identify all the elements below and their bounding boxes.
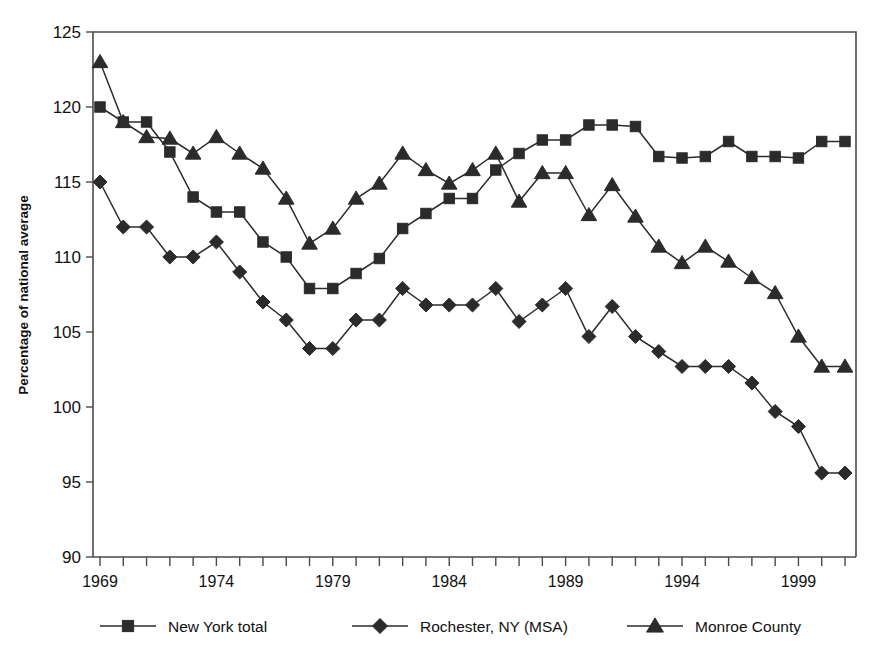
data-point-diamond [512,314,526,328]
data-point-square [165,147,175,157]
data-point-triangle [302,236,318,249]
line-chart: Percentage of national average 909510010… [0,0,872,658]
data-point-diamond [628,329,642,343]
data-point-square [467,193,477,203]
data-point-diamond [93,175,107,189]
data-point-diamond [116,220,130,234]
data-point-triangle [604,177,620,190]
data-point-diamond [419,298,433,312]
data-point-square [607,120,617,130]
data-point-square [281,252,291,262]
data-point-square [397,223,407,233]
series-diamond [93,175,852,480]
data-point-triangle [721,254,737,267]
legend-item-triangle[interactable]: Monroe County [627,618,801,635]
data-point-diamond [791,419,805,433]
y-tick-label: 90 [62,548,81,567]
x-tick-label: 1984 [431,573,467,590]
data-point-square [514,148,524,158]
data-point-square [817,136,827,146]
data-point-diamond [209,235,223,249]
y-axis-ticks: 9095100105110115120125 [53,23,93,567]
data-point-square [584,120,594,130]
axis-lines [93,32,856,557]
data-point-triangle [348,191,364,204]
data-point-triangle [698,239,714,252]
y-tick-label: 105 [53,323,81,342]
legend-label: Rochester, NY (MSA) [420,618,568,635]
data-point-diamond [722,359,736,373]
data-point-diamond [652,344,666,358]
data-point-square [374,253,384,263]
y-axis-title: Percentage of national average [16,195,31,395]
data-point-triangle [255,161,271,174]
chart-container: Percentage of national average 909510010… [0,0,872,658]
x-tick-label: 1989 [548,573,584,590]
y-tick-label: 125 [53,23,81,42]
series-line [100,182,845,473]
series-square [95,102,850,294]
data-point-diamond [186,250,200,264]
data-point-square [328,283,338,293]
data-point-triangle [814,359,830,372]
data-point-triangle [767,285,783,298]
legend-item-diamond[interactable]: Rochester, NY (MSA) [352,618,568,635]
data-point-square [770,151,780,161]
data-point-triangle [441,176,457,189]
data-point-square [351,268,361,278]
data-point-diamond [559,281,573,295]
data-point-square [141,117,151,127]
plot-frame [93,32,856,557]
data-point-triangle [488,146,504,159]
data-point-square [211,207,221,217]
data-point-triangle [372,176,388,189]
data-point-square [723,136,733,146]
x-axis-ticks: 1969197419791984198919941999 [82,557,845,590]
data-point-square [793,153,803,163]
data-point-triangle [325,221,341,234]
data-point-square [258,237,268,247]
data-point-triangle [744,270,760,283]
data-point-square [840,136,850,146]
data-point-triangle [674,255,690,268]
y-tick-label: 110 [54,248,81,267]
data-point-triangle [232,146,248,159]
data-point-triangle [278,191,294,204]
data-point-square [421,208,431,218]
data-point-triangle [92,54,108,67]
data-point-diamond [605,299,619,313]
data-point-triangle [465,162,481,175]
data-point-diamond [675,359,689,373]
y-axis-label: Percentage of national average [16,195,31,395]
data-point-square [630,121,640,131]
legend-label: Monroe County [695,618,801,635]
x-tick-label: 1969 [82,573,118,590]
data-point-square [234,207,244,217]
data-point-diamond [233,265,247,279]
data-point-triangle [395,146,411,159]
data-point-triangle [418,162,434,175]
data-point-diamond [535,298,549,312]
data-point-diamond [465,298,479,312]
chart-legend: New York totalRochester, NY (MSA)Monroe … [100,618,801,635]
data-point-triangle [209,129,225,142]
data-point-triangle [628,209,644,222]
data-point-triangle [558,165,574,178]
data-point-diamond [838,466,852,480]
x-tick-label: 1974 [199,573,235,590]
legend-item-square[interactable]: New York total [100,618,267,635]
y-tick-label: 115 [54,173,81,192]
x-tick-label: 1999 [781,573,817,590]
series-triangle [92,54,853,372]
data-point-square [304,283,314,293]
data-point-triangle [651,239,667,252]
data-point-triangle [837,359,853,372]
data-point-square [444,193,454,203]
data-point-diamond [372,313,386,327]
data-point-triangle [581,207,597,220]
legend-marker-diamond-icon [372,618,387,633]
data-point-triangle [139,129,155,142]
data-point-diamond [489,281,503,295]
data-point-square [491,165,501,175]
data-point-diamond [396,281,410,295]
